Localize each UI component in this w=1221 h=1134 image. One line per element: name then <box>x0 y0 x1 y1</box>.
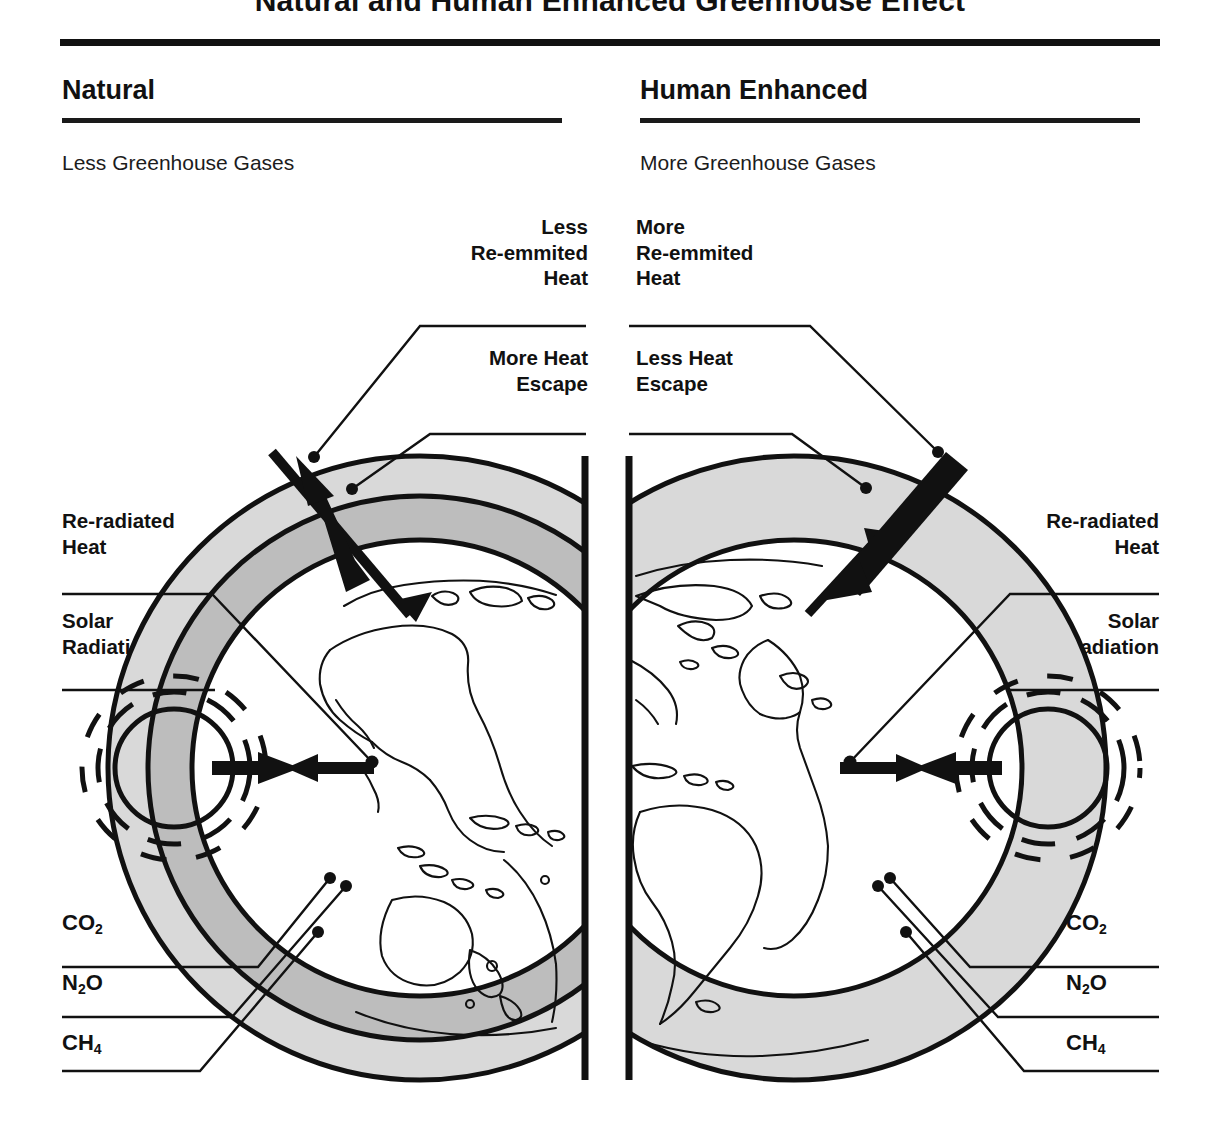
leader-natural-reemitted <box>314 326 586 457</box>
leader-dot-human-reemitted <box>932 446 944 458</box>
leader-dot-natural-n2o <box>340 880 352 892</box>
leader-dot-human-ch4 <box>900 926 912 938</box>
leader-dot-human-escape <box>860 482 872 494</box>
leader-dot-natural-reemitted <box>308 451 320 463</box>
leader-dot-natural-ch4 <box>312 926 324 938</box>
leader-dot-human-n2o <box>872 880 884 892</box>
diagram-artwork <box>0 0 1221 1134</box>
leader-dot-natural-escape <box>346 483 358 495</box>
leader-dot-human-co2 <box>884 872 896 884</box>
leader-dot-natural-co2 <box>324 872 336 884</box>
